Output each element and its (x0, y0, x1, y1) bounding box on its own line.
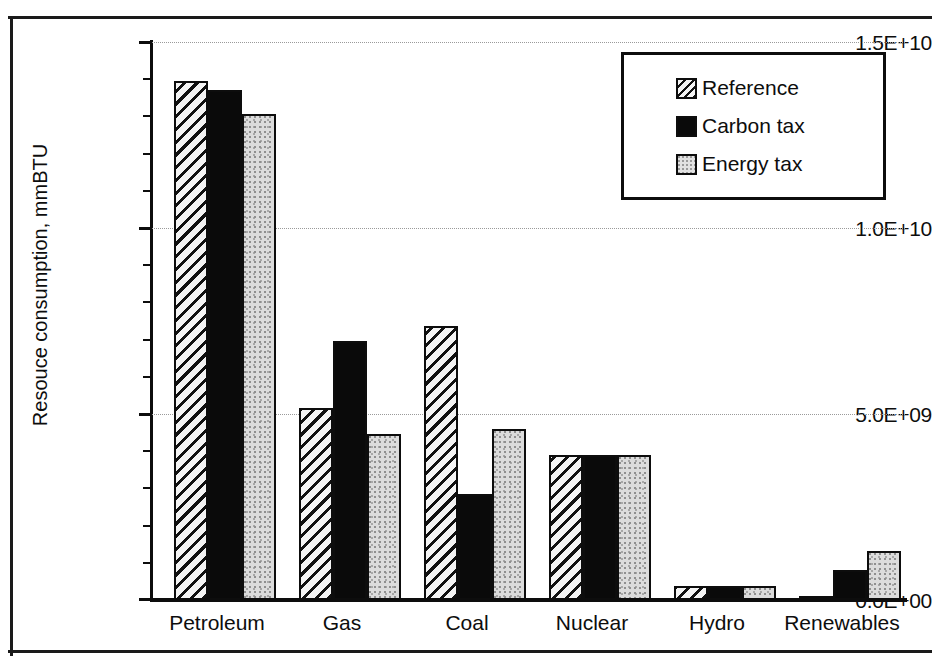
bar-petroleum-carbon-tax[interactable] (208, 90, 242, 600)
bar-renewables-carbon-tax[interactable] (833, 570, 867, 600)
bar-renewables-energy-tax[interactable] (867, 551, 901, 600)
bar-renewables-reference[interactable] (799, 596, 833, 600)
bar-group-coal (406, 42, 528, 600)
x-label-gas: Gas (281, 612, 403, 634)
bar-gas-reference[interactable] (299, 408, 333, 600)
x-label-nuclear: Nuclear (531, 612, 653, 634)
bar-gas-energy-tax[interactable] (367, 434, 401, 600)
bar-hydro-reference[interactable] (674, 586, 708, 600)
bar-petroleum-reference[interactable] (174, 81, 208, 600)
bar-nuclear-carbon-tax[interactable] (583, 455, 617, 600)
y-axis-title: Resouce consumption, mmBTU (30, 75, 50, 495)
y-major-tick-15e10 (139, 41, 153, 44)
bar-group-petroleum (156, 42, 278, 600)
legend-item-energy-tax[interactable]: Energy tax (624, 145, 883, 183)
bar-hydro-energy-tax[interactable] (742, 586, 776, 600)
legend-swatch-energy-tax-icon (676, 154, 697, 175)
bar-petroleum-energy-tax[interactable] (242, 114, 276, 600)
legend-label-energy-tax: Energy tax (702, 153, 802, 175)
bar-nuclear-energy-tax[interactable] (617, 455, 651, 600)
bar-coal-reference[interactable] (424, 326, 458, 600)
bar-coal-carbon-tax[interactable] (458, 494, 492, 600)
legend-label-reference: Reference (702, 77, 799, 99)
legend-swatch-carbon-tax-icon (676, 116, 697, 137)
legend-swatch-reference-icon (676, 78, 697, 99)
legend-item-reference[interactable]: Reference (624, 69, 883, 107)
bar-hydro-carbon-tax[interactable] (708, 586, 742, 600)
x-label-coal: Coal (406, 612, 528, 634)
legend-item-carbon-tax[interactable]: Carbon tax (624, 107, 883, 145)
y-major-tick-5e09 (139, 413, 153, 416)
bar-group-gas (281, 42, 403, 600)
bar-chart: Resouce consumption, mmBTU 1.5E+10 1.0E+… (0, 0, 932, 659)
bar-gas-carbon-tax[interactable] (333, 341, 367, 600)
bar-coal-energy-tax[interactable] (492, 429, 526, 600)
legend-label-carbon-tax: Carbon tax (702, 115, 805, 137)
y-major-tick-10e10 (139, 227, 153, 230)
bar-nuclear-reference[interactable] (549, 455, 583, 600)
x-label-petroleum: Petroleum (156, 612, 278, 634)
y-major-tick-0e00 (139, 598, 153, 601)
x-label-hydro: Hydro (656, 612, 778, 634)
chart-legend: Reference Carbon tax Energy tax (621, 52, 886, 200)
x-label-renewables: Renewables (781, 612, 903, 634)
